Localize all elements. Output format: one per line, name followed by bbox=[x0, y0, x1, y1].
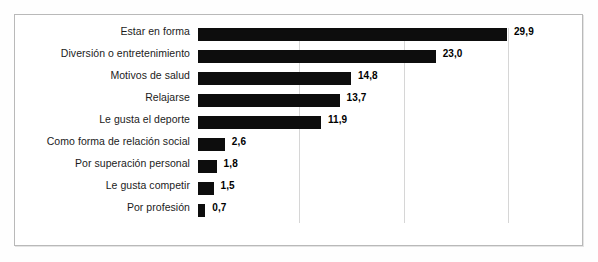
bar-row: Diversión o entretenimiento23,0 bbox=[20, 50, 583, 63]
bar-row: Motivos de salud14,8 bbox=[20, 72, 583, 85]
bar bbox=[198, 28, 507, 41]
bar bbox=[198, 50, 436, 63]
bar-value-label: 2,6 bbox=[232, 135, 246, 148]
bar bbox=[198, 72, 351, 85]
category-label: Diversión o entretenimiento bbox=[20, 47, 190, 60]
bar-value-label: 14,8 bbox=[358, 69, 378, 82]
category-label: Por superación personal bbox=[20, 157, 190, 170]
bar bbox=[198, 204, 205, 217]
bar-value-label: 29,9 bbox=[514, 25, 534, 38]
category-label: Le gusta el deporte bbox=[20, 113, 190, 126]
bar-row: Como forma de relación social2,6 bbox=[20, 138, 583, 151]
bar-row: Por profesión0,7 bbox=[20, 204, 583, 217]
bar bbox=[198, 94, 340, 107]
bar-rows: Estar en forma29,9Diversión o entretenim… bbox=[20, 28, 583, 228]
category-label: Como forma de relación social bbox=[20, 135, 190, 148]
category-label: Estar en forma bbox=[20, 25, 190, 38]
bar-row: Relajarse13,7 bbox=[20, 94, 583, 107]
bar-row: Por superación personal1,8 bbox=[20, 160, 583, 173]
category-label: Motivos de salud bbox=[20, 69, 190, 82]
bar-row: Estar en forma29,9 bbox=[20, 28, 583, 41]
category-label: Le gusta competir bbox=[20, 179, 190, 192]
bar-value-label: 11,9 bbox=[328, 113, 347, 126]
bar-value-label: 1,8 bbox=[224, 157, 238, 170]
bar bbox=[198, 160, 217, 173]
bar bbox=[198, 116, 321, 129]
bar-row: Le gusta competir1,5 bbox=[20, 182, 583, 195]
bar bbox=[198, 182, 214, 195]
bar-value-label: 23,0 bbox=[443, 47, 463, 60]
bar bbox=[198, 138, 225, 151]
chart-figure: Estar en forma29,9Diversión o entretenim… bbox=[0, 0, 598, 262]
bar-value-label: 0,7 bbox=[212, 201, 226, 214]
category-label: Por profesión bbox=[20, 201, 190, 214]
bar-value-label: 13,7 bbox=[347, 91, 367, 104]
category-label: Relajarse bbox=[20, 91, 190, 104]
bar-value-label: 1,5 bbox=[221, 179, 235, 192]
bar-row: Le gusta el deporte11,9 bbox=[20, 116, 583, 129]
